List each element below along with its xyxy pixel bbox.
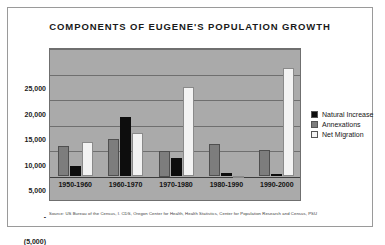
bar xyxy=(132,133,143,177)
bars-layer xyxy=(50,49,300,200)
bar xyxy=(283,68,294,177)
legend: Natural IncreaseAnnexationsNet Migration xyxy=(311,111,385,141)
legend-item: Net Migration xyxy=(311,131,385,138)
y-axis: 25,00020,00015,00010,0005,000-(5,000) xyxy=(8,48,46,223)
bar xyxy=(159,151,170,177)
category-label: 1980-1990 xyxy=(201,181,251,188)
bar xyxy=(271,174,282,176)
y-axis-tick-label: 25,000 xyxy=(8,85,46,92)
legend-item: Natural Increase xyxy=(311,111,385,118)
y-axis-tick-label: 15,000 xyxy=(8,136,46,143)
category-label: 1970-1980 xyxy=(151,181,201,188)
legend-swatch-icon xyxy=(311,121,318,128)
bar xyxy=(183,87,194,177)
legend-swatch-icon xyxy=(311,131,318,138)
chart-frame: COMPONENTS OF EUGENE'S POPULATION GROWTH… xyxy=(7,7,373,227)
category-label: 1990-2000 xyxy=(252,181,302,188)
y-axis-tick-label: 20,000 xyxy=(8,110,46,117)
bar xyxy=(221,173,232,177)
legend-swatch-icon xyxy=(311,111,318,118)
source-note: Source: US Bureau of the Census, I. CDS,… xyxy=(49,211,317,216)
bar xyxy=(82,142,93,177)
y-axis-tick-label: (5,000) xyxy=(8,238,46,245)
chart-title: COMPONENTS OF EUGENE'S POPULATION GROWTH xyxy=(8,21,372,32)
legend-label: Annexations xyxy=(322,121,361,128)
bar xyxy=(259,150,270,176)
legend-label: Net Migration xyxy=(322,131,364,138)
bar xyxy=(171,158,182,176)
y-axis-tick-label: 5,000 xyxy=(8,187,46,194)
category-label: 1960-1970 xyxy=(100,181,150,188)
category-label: 1950-1960 xyxy=(50,181,100,188)
bar xyxy=(70,166,81,176)
bar xyxy=(108,139,119,176)
y-axis-tick-label: - xyxy=(8,212,46,219)
bar xyxy=(120,117,131,177)
plot-area: 1950-19601960-19701970-19801980-19901990… xyxy=(49,48,301,201)
y-axis-tick-label: 10,000 xyxy=(8,161,46,168)
bar xyxy=(233,176,244,178)
bar xyxy=(58,146,69,177)
bar xyxy=(209,144,220,176)
legend-label: Natural Increase xyxy=(322,111,373,118)
legend-item: Annexations xyxy=(311,121,385,128)
